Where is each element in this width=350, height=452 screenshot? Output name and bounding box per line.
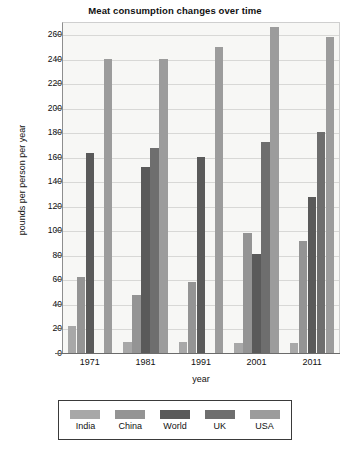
y-tick-label: 200 bbox=[2, 103, 62, 113]
bar-china-1981 bbox=[132, 295, 141, 353]
chart-legend: IndiaChinaWorldUKUSA bbox=[58, 400, 292, 440]
y-tick-mark bbox=[55, 59, 62, 60]
y-tick-label: 0 bbox=[2, 348, 62, 358]
bar-usa-1981 bbox=[159, 59, 168, 353]
legend-label-uk: UK bbox=[214, 421, 227, 431]
bar-world-1981 bbox=[141, 167, 150, 353]
bar-india-1991 bbox=[179, 342, 188, 353]
x-tick-label-2001: 2001 bbox=[247, 357, 267, 367]
legend-swatch-india bbox=[70, 410, 100, 419]
bar-world-2011 bbox=[308, 197, 317, 353]
y-tick-label: 20 bbox=[2, 323, 62, 333]
y-tick-label: 100 bbox=[2, 225, 62, 235]
bar-chart: Meat consumption changes over time pound… bbox=[0, 0, 350, 452]
y-tick-mark bbox=[55, 328, 62, 329]
x-tick-label-1971: 1971 bbox=[80, 357, 100, 367]
legend-swatch-china bbox=[115, 410, 145, 419]
y-tick-label: 220 bbox=[2, 78, 62, 88]
y-tick-label: 120 bbox=[2, 201, 62, 211]
legend-swatch-uk bbox=[205, 410, 235, 419]
x-axis-line bbox=[62, 353, 340, 354]
bar-india-2011 bbox=[290, 343, 299, 353]
y-tick-label: 140 bbox=[2, 176, 62, 186]
legend-label-china: China bbox=[118, 421, 142, 431]
y-tick-mark bbox=[55, 157, 62, 158]
y-tick-mark bbox=[55, 181, 62, 182]
bar-uk-1981 bbox=[150, 148, 159, 353]
bar-world-1971 bbox=[86, 153, 95, 353]
legend-label-usa: USA bbox=[255, 421, 274, 431]
bar-china-2011 bbox=[299, 241, 308, 353]
y-tick-mark bbox=[55, 230, 62, 231]
legend-item-india: India bbox=[64, 410, 106, 431]
x-tick-label-1981: 1981 bbox=[135, 357, 155, 367]
y-tick-mark bbox=[55, 279, 62, 280]
legend-item-china: China bbox=[109, 410, 151, 431]
bar-india-1971 bbox=[68, 326, 77, 353]
y-tick-mark bbox=[55, 108, 62, 109]
legend-item-usa: USA bbox=[244, 410, 286, 431]
y-tick-mark bbox=[55, 83, 62, 84]
y-tick-label: 180 bbox=[2, 127, 62, 137]
y-tick-label: 40 bbox=[2, 299, 62, 309]
bar-india-1981 bbox=[123, 342, 132, 353]
legend-item-uk: UK bbox=[199, 410, 241, 431]
y-tick-label: 240 bbox=[2, 54, 62, 64]
y-tick-label: 80 bbox=[2, 250, 62, 260]
legend-swatch-usa bbox=[250, 410, 280, 419]
bar-usa-2001 bbox=[270, 27, 279, 353]
bar-china-1971 bbox=[77, 277, 86, 353]
y-tick-mark bbox=[55, 206, 62, 207]
bars-layer bbox=[62, 22, 340, 353]
legend-item-world: World bbox=[154, 410, 196, 431]
y-tick-label: 160 bbox=[2, 152, 62, 162]
bar-world-2001 bbox=[252, 254, 261, 353]
bar-india-2001 bbox=[234, 343, 243, 353]
x-tick-label-2011: 2011 bbox=[303, 357, 322, 367]
legend-swatch-world bbox=[160, 410, 190, 419]
bar-usa-1971 bbox=[104, 59, 113, 353]
x-axis-label: year bbox=[62, 374, 340, 384]
legend-label-india: India bbox=[76, 421, 96, 431]
bar-uk-2011 bbox=[317, 132, 326, 353]
bar-usa-1991 bbox=[215, 47, 224, 353]
y-tick-label: 60 bbox=[2, 274, 62, 284]
y-tick-label: 260 bbox=[2, 29, 62, 39]
chart-title: Meat consumption changes over time bbox=[0, 5, 350, 16]
y-tick-mark bbox=[55, 353, 62, 354]
y-tick-mark bbox=[55, 34, 62, 35]
legend-label-world: World bbox=[163, 421, 186, 431]
bar-usa-2011 bbox=[326, 37, 335, 353]
bar-uk-2001 bbox=[261, 142, 270, 353]
y-tick-mark bbox=[55, 304, 62, 305]
y-tick-mark bbox=[55, 255, 62, 256]
bar-china-1991 bbox=[188, 282, 197, 353]
y-tick-mark bbox=[55, 132, 62, 133]
x-tick-label-1991: 1991 bbox=[191, 357, 211, 367]
bar-china-2001 bbox=[243, 233, 252, 353]
bar-world-1991 bbox=[197, 157, 206, 353]
